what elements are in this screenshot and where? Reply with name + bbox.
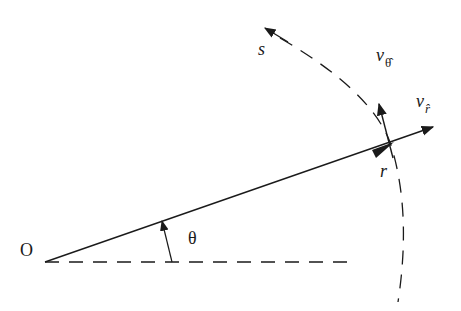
- v-r-arrow: [390, 127, 433, 142]
- v-theta-base: v: [376, 45, 384, 65]
- angle-label: θ: [188, 229, 197, 247]
- polar-diagram: [0, 0, 461, 311]
- arc-length-label: s: [258, 40, 265, 58]
- v-theta-label: vθ̂: [376, 46, 391, 64]
- arc-direction-arrow: [265, 28, 288, 42]
- v-theta-subscript: θ̂: [385, 55, 391, 70]
- radial-line: [45, 142, 390, 262]
- v-r-subscript: r̂: [425, 101, 430, 116]
- v-r-label: vr̂: [416, 92, 430, 110]
- v-r-base: v: [416, 91, 424, 111]
- origin-label: O: [20, 241, 33, 259]
- angle-theta-arrow: [162, 221, 172, 262]
- radius-label: r: [380, 162, 387, 180]
